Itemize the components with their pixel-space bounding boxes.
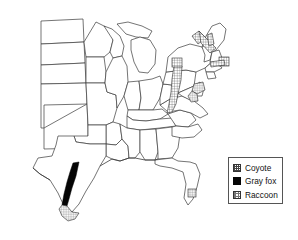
map-legend: Coyote Gray fox Raccoon [228,157,283,204]
state-outlines [33,19,226,212]
legend-item-raccoon: Raccoon [233,188,279,202]
legend-swatch-gray-fox-icon [233,177,241,185]
legend-item-coyote: Coyote [233,161,279,175]
legend-label-gray-fox: Gray fox [245,177,276,185]
us-map-svg [0,0,298,240]
zone-raccoon-florida [188,189,196,197]
legend-swatch-raccoon-icon [233,191,241,199]
rabies-variant-map: Coyote Gray fox Raccoon [0,0,298,240]
zone-coyote-lake-erie [172,58,182,67]
legend-item-gray-fox: Gray fox [233,175,279,189]
legend-swatch-coyote-icon [233,164,241,172]
legend-label-raccoon: Raccoon [245,191,278,199]
legend-label-coyote: Coyote [245,164,271,172]
